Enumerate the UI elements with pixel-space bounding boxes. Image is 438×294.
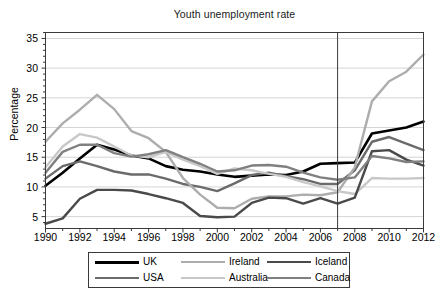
legend-swatch-ireland xyxy=(181,261,225,263)
series-lines xyxy=(46,54,424,223)
chart-legend: UKIrelandIcelandUSAAustraliaCanada xyxy=(88,252,350,288)
legend-label: UK xyxy=(143,256,157,267)
legend-swatch-iceland xyxy=(267,261,311,263)
plot-area xyxy=(0,0,438,294)
legend-label: Australia xyxy=(229,272,268,283)
legend-swatch-usa xyxy=(95,277,139,279)
legend-swatch-australia xyxy=(181,277,225,279)
chart-figure: Youth unemployment rate Percentage 51015… xyxy=(0,0,438,294)
legend-label: USA xyxy=(143,272,164,283)
axis-ticks xyxy=(42,33,424,233)
series-line-ireland xyxy=(46,54,424,208)
plot-frame xyxy=(46,33,424,229)
legend-label: Ireland xyxy=(229,256,260,267)
legend-label: Canada xyxy=(315,272,350,283)
legend-swatch-canada xyxy=(267,277,311,279)
series-line-uk xyxy=(46,122,424,186)
legend-swatch-uk xyxy=(95,261,139,264)
legend-label: Iceland xyxy=(315,256,347,267)
